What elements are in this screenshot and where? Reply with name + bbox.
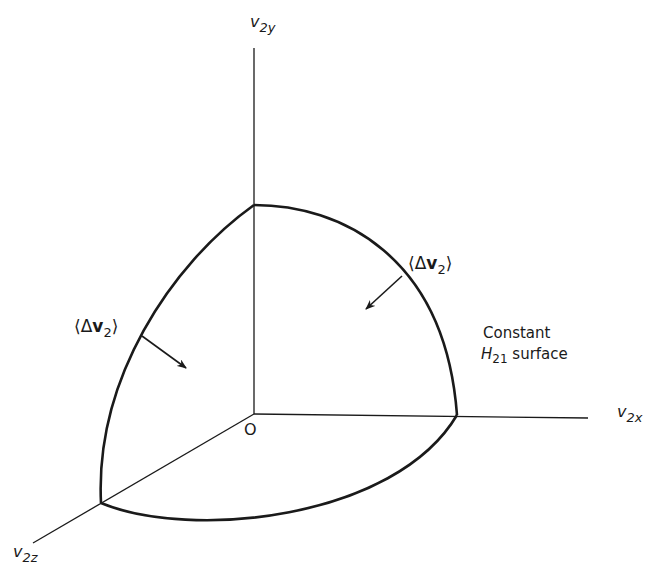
x-axis-label: v2x [617, 404, 642, 420]
surface-word: surface [512, 345, 567, 363]
z-axis [33, 414, 254, 543]
axis-sub: 2y [259, 20, 275, 35]
open-bracket: ⟨ [408, 253, 415, 273]
vector-var: v [426, 253, 437, 273]
delta-symbol: Δ [81, 316, 93, 336]
close-bracket: ⟩ [446, 253, 453, 273]
z-axis-label: v2z [13, 544, 38, 560]
vector-sub: 2 [103, 325, 111, 340]
y-axis-label: v2y [250, 14, 275, 30]
surface-label-line1: Constant [483, 326, 550, 341]
surface-edge-zx [101, 415, 457, 520]
axis-sub: 2x [626, 410, 642, 425]
delta-symbol: Δ [415, 253, 427, 273]
diagram-canvas [0, 0, 656, 586]
vector-sub: 2 [437, 262, 445, 277]
axis-sub: 2z [22, 550, 37, 565]
flux-label-upper-right: ⟨Δv2⟩ [408, 255, 452, 272]
hamiltonian-sub: 21 [492, 352, 507, 366]
flux-arrow-left [142, 336, 186, 368]
origin-label: O [244, 422, 257, 438]
x-axis [254, 414, 588, 418]
vector-var: v [92, 316, 103, 336]
close-bracket: ⟩ [112, 316, 119, 336]
hamiltonian-var: H [481, 345, 492, 363]
surface-edge-yx [254, 205, 457, 415]
flux-arrow-upper-right [366, 276, 402, 309]
flux-label-left: ⟨Δv2⟩ [74, 318, 118, 335]
surface-label-line2: H21 surface [481, 347, 568, 362]
open-bracket: ⟨ [74, 316, 81, 336]
